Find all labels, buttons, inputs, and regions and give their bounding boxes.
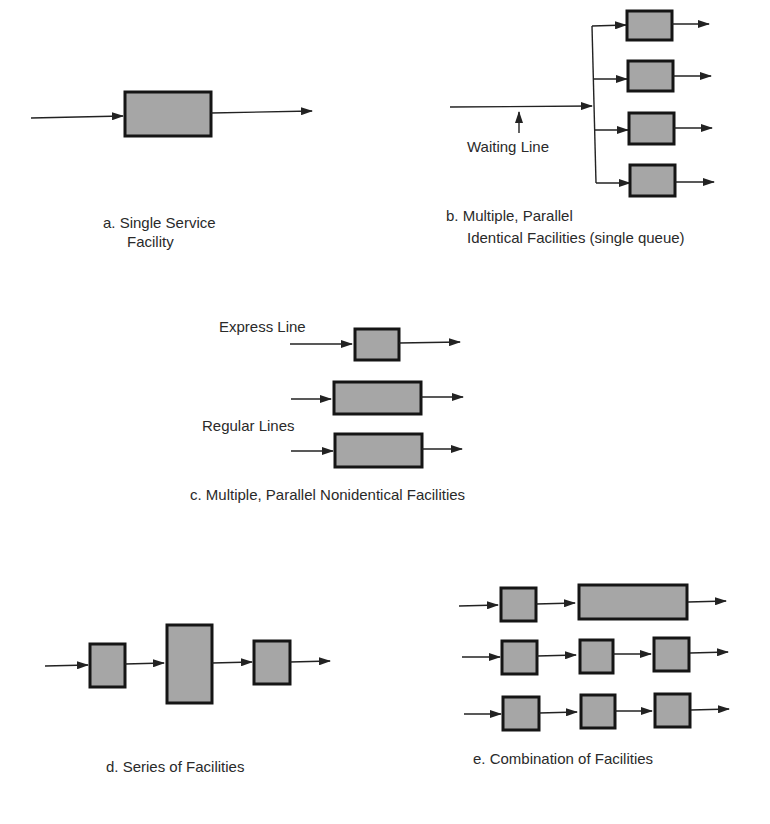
express-line-label: Express Line (219, 318, 306, 335)
series-stage-3 (254, 641, 290, 684)
combo-r1-stage-2 (579, 585, 687, 619)
caption-e: e. Combination of Facilities (473, 750, 653, 767)
regular-server-2 (335, 434, 422, 467)
regular-lines-label: Regular Lines (202, 417, 295, 434)
combo-r3-stage-2 (581, 695, 615, 728)
combo-r3-stage-1 (503, 697, 539, 730)
combo-r3-stage-3 (655, 694, 690, 727)
panel-d-series: d. Series of Facilities (45, 625, 330, 775)
server-1 (627, 11, 672, 40)
panel-c-parallel-nonidentical: Express Line Regular Lines c. Multiple, … (190, 318, 465, 503)
regular-server-1 (334, 382, 421, 414)
express-server (355, 329, 399, 360)
server-2 (628, 61, 673, 91)
service-facility (125, 92, 211, 136)
combo-r2-stage-1 (502, 641, 537, 674)
server-3 (629, 113, 674, 144)
panel-e-combination: e. Combination of Facilities (459, 585, 729, 767)
caption-c: c. Multiple, Parallel Nonidentical Facil… (190, 486, 465, 503)
panel-b-parallel-identical: Waiting Line b. Multiple, Parallel Ident… (446, 11, 714, 246)
panel-a-single-service: a. Single Service Facility (31, 92, 312, 250)
caption-b-line2: Identical Facilities (single queue) (467, 229, 685, 246)
series-stage-1 (90, 644, 125, 687)
caption-a-line2: Facility (127, 233, 174, 250)
queueing-configurations-diagram: a. Single Service Facility Waiting Line … (0, 0, 770, 824)
server-4 (630, 165, 675, 196)
waiting-line-label: Waiting Line (467, 138, 549, 155)
combo-r1-stage-1 (501, 588, 536, 621)
combo-r2-stage-3 (654, 638, 689, 671)
caption-a-line1: a. Single Service (103, 214, 216, 231)
caption-b-line1: b. Multiple, Parallel (446, 207, 573, 224)
series-stage-2 (167, 625, 212, 703)
caption-d: d. Series of Facilities (106, 758, 244, 775)
combo-r2-stage-2 (580, 640, 613, 673)
